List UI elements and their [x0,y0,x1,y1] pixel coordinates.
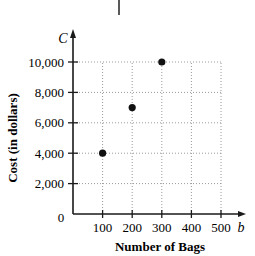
x-tick-label: 100 [93,220,113,235]
y-axis-arrow-icon [70,29,76,38]
x-tick-label: 300 [152,220,172,235]
origin-label: 0 [58,210,65,225]
x-variable-label: b [238,220,245,235]
scatter-chart: 1002003004005002,0004,0006,0008,00010,00… [0,0,255,256]
x-axis-title: Number of Bags [115,239,205,254]
y-variable-label: C [58,31,68,46]
data-point [158,58,165,65]
data-point [99,150,106,157]
y-tick-label: 6,000 [35,115,64,130]
y-tick-label: 8,000 [35,85,64,100]
ticks: 1002003004005002,0004,0006,0008,00010,00… [28,55,231,236]
y-tick-label: 10,000 [28,55,64,70]
y-axis-title: Cost (in dollars) [5,93,20,183]
data-point [129,104,136,111]
x-tick-label: 500 [211,220,231,235]
data-points [99,58,165,156]
grid [73,62,221,214]
y-tick-label: 2,000 [35,176,64,191]
x-tick-label: 400 [182,220,202,235]
x-tick-label: 200 [122,220,142,235]
x-axis-arrow-icon [238,211,246,217]
y-tick-label: 4,000 [35,146,64,161]
